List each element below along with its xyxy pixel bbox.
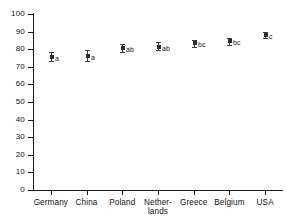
error-bar-cap-lower — [192, 47, 197, 48]
y-axis-tick — [28, 49, 33, 50]
data-point-marker — [121, 46, 125, 50]
y-axis-tick-label: 0 — [1, 186, 25, 194]
x-axis-tick-label: USA — [243, 198, 287, 207]
x-axis-tick — [51, 191, 52, 195]
chart-figure: 0102030405060708090100 GermanyChinaPolan… — [0, 0, 287, 222]
significance-letter: bc — [198, 41, 205, 48]
error-bar-cap-upper — [49, 52, 54, 53]
error-bar-cap-upper — [85, 50, 90, 51]
error-bar-cap-lower — [227, 45, 232, 46]
error-bar-cap-upper — [120, 44, 125, 45]
significance-letter: a — [55, 55, 59, 62]
x-axis-tick — [194, 191, 195, 195]
x-axis-tick — [87, 191, 88, 195]
x-axis-tick — [158, 191, 159, 195]
data-point-marker — [228, 39, 232, 43]
x-axis-tick — [122, 191, 123, 195]
data-point-marker — [157, 45, 161, 49]
y-axis-tick-label: 60 — [1, 80, 25, 88]
y-axis-tick — [28, 190, 33, 191]
data-point-marker — [193, 41, 197, 45]
y-axis-tick-label: 100 — [1, 10, 25, 18]
y-axis-tick-label: 90 — [1, 28, 25, 36]
y-axis-tick-label: 20 — [1, 151, 25, 159]
y-axis-tick — [28, 137, 33, 138]
y-axis-tick-label: 30 — [1, 133, 25, 141]
error-bar-cap-lower — [156, 50, 161, 51]
x-axis-tick — [265, 191, 266, 195]
data-point-marker — [86, 54, 90, 58]
error-bar-cap-lower — [49, 61, 54, 62]
y-axis-tick — [28, 14, 33, 15]
y-axis-tick — [28, 172, 33, 173]
significance-letter: a — [91, 54, 95, 61]
data-point-marker — [264, 33, 268, 37]
error-bar-cap-upper — [156, 42, 161, 43]
significance-letter: bc — [233, 39, 240, 46]
data-point-marker — [50, 55, 54, 59]
y-axis-tick — [28, 32, 33, 33]
y-axis-tick-label: 80 — [1, 45, 25, 53]
y-axis-tick — [28, 155, 33, 156]
significance-letter: ab — [126, 46, 134, 53]
y-axis-tick-label: 70 — [1, 63, 25, 71]
y-axis-tick-label: 50 — [1, 98, 25, 106]
error-bar-cap-lower — [263, 38, 268, 39]
y-axis-tick — [28, 67, 33, 68]
x-axis-tick — [229, 191, 230, 195]
y-axis-tick-label: 40 — [1, 116, 25, 124]
y-axis-tick-label: 10 — [1, 168, 25, 176]
significance-letter: ab — [162, 45, 170, 52]
significance-letter: c — [269, 33, 273, 40]
error-bar-cap-lower — [85, 61, 90, 62]
y-axis-tick — [28, 120, 33, 121]
y-axis-tick — [28, 84, 33, 85]
error-bar-cap-lower — [120, 52, 125, 53]
y-axis-tick — [28, 102, 33, 103]
y-axis-line — [33, 13, 34, 191]
